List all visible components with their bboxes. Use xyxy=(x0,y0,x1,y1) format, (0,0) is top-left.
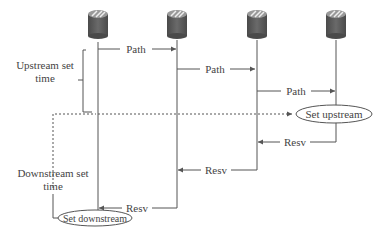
resv-message-2: Resv xyxy=(178,164,257,176)
path-label-3: Path xyxy=(286,85,306,97)
set-downstream-label: Set downstream xyxy=(63,213,127,224)
upstream-bracket xyxy=(78,50,92,112)
path-label-2: Path xyxy=(205,63,225,75)
set-downstream-event: Set downstream xyxy=(58,210,132,226)
resv-message-1: Resv xyxy=(258,136,336,148)
upstream-label-line2: time xyxy=(35,72,55,84)
upstream-label-line1: Upstream set xyxy=(16,59,74,71)
set-upstream-event: Set upstream xyxy=(296,105,372,123)
router-4-icon xyxy=(326,10,346,39)
rsvp-diagram: Path Path Path Upstream set time Set ups… xyxy=(0,0,386,240)
router-3-icon xyxy=(247,10,267,39)
path-message-1: Path xyxy=(98,43,176,55)
resv-label-3: Resv xyxy=(126,202,149,214)
router-1-icon xyxy=(88,10,108,39)
downstream-label-line2: time xyxy=(43,180,63,192)
set-upstream-label: Set upstream xyxy=(305,108,363,120)
downstream-connector xyxy=(53,194,58,218)
path-label-1: Path xyxy=(126,43,146,55)
path-message-2: Path xyxy=(177,63,255,75)
resv-label-2: Resv xyxy=(205,164,228,176)
router-2-icon xyxy=(167,10,187,39)
resv-label-1: Resv xyxy=(284,136,307,148)
path-message-3: Path xyxy=(257,85,335,97)
downstream-label-line1: Downstream set xyxy=(17,167,88,179)
